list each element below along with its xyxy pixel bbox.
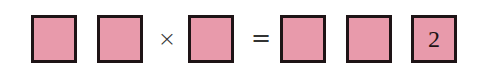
digit-box-4 [280, 15, 326, 63]
digit-box-1 [31, 15, 77, 63]
digit-box-2 [97, 15, 143, 63]
equals-sign: = [248, 20, 274, 56]
multiply-sign: × [154, 20, 180, 56]
digit-box-5 [346, 15, 392, 63]
digit-box-6: 2 [411, 15, 457, 63]
digit-box-3 [188, 15, 234, 63]
